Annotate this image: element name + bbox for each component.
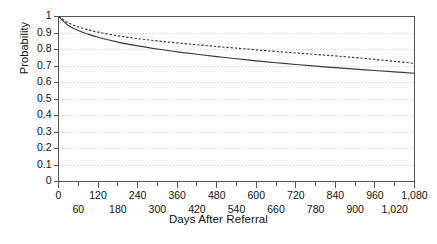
y-tick-label: 0.5 bbox=[18, 92, 52, 104]
y-tick-label: 0.3 bbox=[18, 125, 52, 137]
chart-figure: Probability Days After Referral 10.90.80… bbox=[0, 0, 437, 244]
x-tick-label-upper: 1,080 bbox=[392, 189, 437, 201]
x-axis-title: Days After Referral bbox=[0, 213, 437, 225]
y-tick-label: 0.1 bbox=[18, 158, 52, 170]
y-tick-label: 0 bbox=[18, 174, 52, 186]
y-tick-label: 0.6 bbox=[18, 75, 52, 87]
series-line-solid-curve bbox=[59, 17, 415, 74]
x-tick-label-lower: 1,020 bbox=[372, 203, 418, 215]
y-tick-label: 1 bbox=[18, 9, 52, 21]
data-series bbox=[59, 17, 415, 74]
y-axis-ticks bbox=[54, 17, 59, 182]
y-tick-label: 0.7 bbox=[18, 59, 52, 71]
y-tick-label: 0.8 bbox=[18, 42, 52, 54]
y-tick-label: 0.4 bbox=[18, 108, 52, 120]
y-tick-label: 0.9 bbox=[18, 26, 52, 38]
series-line-dotted-curve bbox=[59, 17, 415, 64]
gridlines bbox=[59, 17, 415, 166]
y-tick-label: 0.2 bbox=[18, 141, 52, 153]
x-axis-ticks bbox=[59, 182, 415, 188]
